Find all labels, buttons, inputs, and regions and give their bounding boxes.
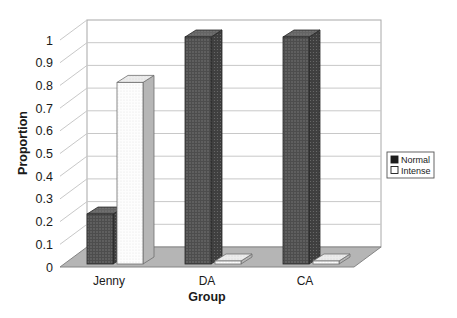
gridline-left: [60, 43, 87, 63]
bar-front-face: [87, 214, 113, 264]
y-tick-label: 0.3: [36, 192, 53, 206]
y-axis-title: Proportion: [16, 111, 30, 175]
y-tick-label: 1: [46, 34, 53, 48]
x-category-label-ca: CA: [297, 274, 314, 288]
y-tick-label: 0.1: [36, 238, 53, 252]
bar-front-face: [313, 261, 339, 264]
x-axis-title: Group: [188, 290, 226, 304]
gridline-left: [60, 224, 87, 244]
bar-ca-normal: [283, 30, 320, 264]
gridline-left: [60, 202, 87, 222]
y-tick-label: 0.6: [36, 124, 53, 138]
bar-front-face: [185, 37, 211, 264]
legend-label-normal: Normal: [401, 155, 430, 165]
gridline-left: [60, 20, 87, 40]
bar-da-normal: [185, 30, 222, 264]
gridline-left: [60, 179, 87, 199]
x-category-label-jenny: Jenny: [93, 274, 125, 288]
bar-front-face: [283, 37, 309, 264]
bar-side-face: [309, 30, 320, 264]
bar-side-face: [211, 30, 222, 264]
y-tick-label: 0.8: [36, 79, 53, 93]
y-tick-label: 0.5: [36, 147, 53, 161]
bar-front-face: [117, 82, 143, 264]
y-tick-label: 0.4: [36, 170, 53, 184]
gridline-left: [60, 65, 87, 85]
gridline-left: [60, 134, 87, 154]
chart-figure: 00.10.20.30.40.50.60.70.80.91JennyDACAGr…: [0, 0, 457, 318]
legend-swatch-intense: [391, 167, 398, 174]
y-tick-label: 0.7: [36, 102, 53, 116]
legend: NormalIntense: [387, 152, 434, 178]
gridline-left: [60, 156, 87, 176]
3d-bar-chart: 00.10.20.30.40.50.60.70.80.91JennyDACAGr…: [0, 0, 457, 318]
y-tick-label: 0.2: [36, 215, 53, 229]
y-tick-label: 0.9: [36, 56, 53, 70]
y-tick-label: 0: [46, 261, 53, 275]
bar-front-face: [215, 261, 241, 264]
gridline-left: [60, 88, 87, 108]
x-category-label-da: DA: [199, 274, 216, 288]
legend-label-intense: Intense: [401, 166, 431, 176]
bar-jenny-intense: [117, 75, 154, 264]
legend-swatch-normal: [391, 156, 398, 163]
gridline-left: [60, 111, 87, 131]
bar-side-face: [143, 75, 154, 264]
